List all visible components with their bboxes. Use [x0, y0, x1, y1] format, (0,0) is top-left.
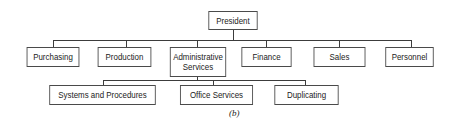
- node-label: Systems and Procedures: [58, 90, 146, 100]
- node-president: President: [208, 11, 257, 30]
- node-production: Production: [98, 47, 152, 67]
- node-duplicating: Duplicating: [274, 85, 338, 105]
- node-sales: Sales: [314, 47, 366, 67]
- connector-president-down: [233, 30, 234, 40]
- org-chart: President Purchasing Production Administ…: [0, 0, 458, 126]
- node-label: Purchasing: [33, 52, 73, 62]
- node-label: Sales: [330, 52, 350, 62]
- figure-caption: (b): [229, 108, 240, 118]
- node-label: Duplicating: [287, 90, 326, 100]
- node-label: President: [216, 16, 249, 26]
- connector-level2-bar: [103, 80, 306, 81]
- node-label-line1: Administrative: [173, 52, 223, 62]
- node-systems-and-procedures: Systems and Procedures: [49, 85, 155, 105]
- node-office-services: Office Services: [180, 85, 253, 105]
- connector-purchasing: [53, 40, 54, 47]
- connector-admin: [197, 40, 198, 47]
- connector-production: [126, 40, 127, 47]
- connector-level1-bar: [53, 40, 412, 41]
- node-label: Finance: [252, 52, 280, 62]
- node-label: Production: [106, 52, 144, 62]
- connector-sales: [339, 40, 340, 47]
- connector-personnel: [411, 40, 412, 47]
- node-label-line2: Services: [183, 62, 213, 72]
- node-administrative-services: Administrative Services: [170, 47, 226, 77]
- node-purchasing: Purchasing: [27, 47, 80, 67]
- connector-finance: [266, 40, 267, 47]
- node-personnel: Personnel: [385, 47, 433, 67]
- node-label: Office Services: [190, 90, 243, 100]
- node-label: Personnel: [392, 52, 428, 62]
- node-finance: Finance: [241, 47, 291, 67]
